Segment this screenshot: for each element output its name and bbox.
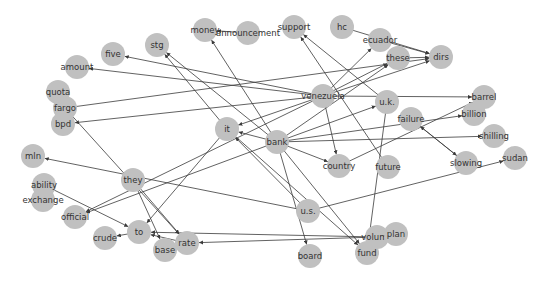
node-label: ecuador <box>363 35 398 45</box>
node-uk: u.k. <box>375 90 399 114</box>
node-label: they <box>124 175 143 185</box>
node-future: future <box>375 155 401 179</box>
node-label: plan <box>387 229 405 239</box>
nodes-layer: moneyannouncementsupporthcecuadorthesedi… <box>21 15 528 268</box>
edge-venezuela-to-official <box>86 96 323 212</box>
node-label: shilling <box>479 131 509 141</box>
edge-venezuela-to-bpd <box>75 96 323 123</box>
node-label: base <box>155 245 175 255</box>
node-label: mln <box>25 151 41 161</box>
node-rate: rate <box>175 231 199 255</box>
node-dirs: dirs <box>429 45 453 69</box>
node-label: country <box>323 161 356 171</box>
node-label: stg <box>150 40 163 50</box>
node-country: country <box>323 154 356 178</box>
node-label: failure <box>398 114 425 124</box>
node-label: fund <box>357 248 376 258</box>
node-label: billion <box>461 109 486 119</box>
node-board: board <box>298 244 323 268</box>
node-label: venezuela <box>301 91 345 101</box>
node-crude: crude <box>93 226 117 250</box>
node-label: these <box>386 53 410 63</box>
node-label: announcement <box>216 28 281 38</box>
node-bpd: bpd <box>51 112 75 136</box>
node-us: u.s. <box>296 199 320 223</box>
node-label: fargo <box>54 103 76 113</box>
node-venezuela: venezuela <box>301 84 345 108</box>
node-these: these <box>386 46 410 70</box>
edge-bank-to-these <box>277 65 388 142</box>
node-they: they <box>121 168 145 192</box>
node-label: amount <box>61 62 94 72</box>
edge-it-to-fund <box>227 129 358 245</box>
node-announcement: announcement <box>216 21 281 45</box>
node-label: bpd <box>55 119 71 129</box>
node-label: crude <box>93 233 117 243</box>
edge-bank-to-shilling <box>277 136 482 142</box>
node-label: slowing <box>450 158 482 168</box>
node-label: dirs <box>433 52 449 62</box>
node-sudan: sudan <box>502 146 528 170</box>
node-slowing: slowing <box>450 151 482 175</box>
node-it: it <box>215 117 239 141</box>
node-label: support <box>278 22 311 32</box>
node-bank: bank <box>265 130 289 154</box>
node-five: five <box>101 42 125 66</box>
node-label: sudan <box>502 153 528 163</box>
node-label: hc <box>337 22 347 32</box>
node-to: to <box>127 220 151 244</box>
node-stg: stg <box>145 33 169 57</box>
edge-bank-to-official <box>86 142 277 213</box>
edge-it-to-stg <box>165 54 227 129</box>
node-support: support <box>278 15 311 39</box>
node-fund: fund <box>355 241 379 265</box>
node-label: five <box>105 49 121 59</box>
node-label: rate <box>178 238 195 248</box>
node-official: official <box>61 205 89 229</box>
node-label: quota <box>46 87 71 97</box>
edge-bank-to-board <box>277 142 307 244</box>
node-label: official <box>61 212 89 222</box>
edge-fargo-to-dirs <box>65 59 429 108</box>
node-label: future <box>375 162 401 172</box>
node-base: base <box>153 238 177 262</box>
node-label: u.s. <box>300 206 315 216</box>
node-label: board <box>298 251 323 261</box>
node-label: to <box>135 227 144 237</box>
node-hc: hc <box>330 15 354 39</box>
node-plan: plan <box>384 222 408 246</box>
node-label: bank <box>267 137 288 147</box>
node-mln: mln <box>21 144 45 168</box>
node-label: barrel <box>472 92 497 102</box>
network-graph: moneyannouncementsupporthcecuadorthesedi… <box>0 0 544 283</box>
node-amount: amount <box>61 55 94 79</box>
node-shilling: shilling <box>479 124 509 148</box>
node-label: exchange <box>22 195 63 205</box>
node-label: it <box>224 124 230 134</box>
node-label: u.k. <box>379 97 395 107</box>
